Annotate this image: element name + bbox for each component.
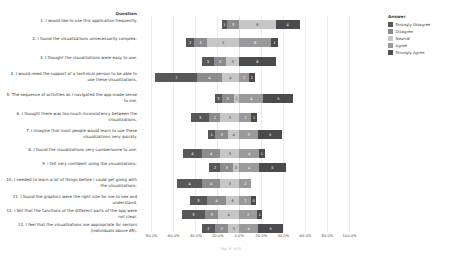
bar-segment-5-5: 5 (263, 94, 293, 103)
bar-segment-11-2: 4 (207, 196, 226, 205)
question-label-11: 11. I found the graphics were the right … (3, 194, 137, 205)
bar-segment-10-1: 4 (177, 179, 201, 188)
bar-segment-7-4: 3 (239, 130, 258, 139)
bar-segment-11-5: 0 (251, 196, 255, 205)
x-tick-4: 0.0% (235, 234, 244, 238)
question-label-4: 4. I would need the support of a technic… (3, 71, 137, 82)
legend-swatch-icon-1 (388, 29, 393, 34)
question-label-2: 2. I found the visualizations unnecessar… (3, 36, 137, 42)
bar-segment-8-4: 4 (239, 149, 259, 158)
bar-segment-6-3: 3 (220, 113, 239, 122)
question-label-9: 9. I felt very confident using the visua… (3, 161, 137, 167)
figure-caption: Fig. 8. SUS (0, 246, 462, 251)
bar-row-3: 3336 (140, 57, 355, 66)
x-tick-8: 80.0% (322, 234, 334, 238)
bar-segment-3-1: 3 (202, 57, 214, 66)
bar-segment-1-5: 4 (276, 20, 300, 29)
plot-area: 1364235613336744213324532321134354434123… (140, 16, 355, 232)
bar-segment-4-4: 2 (239, 73, 249, 82)
legend-item-0[interactable]: Strongly Disagree (388, 22, 458, 27)
bar-segment-12-4: 2 (239, 210, 257, 219)
bar-segment-2-5: 1 (271, 38, 278, 47)
bar-row-9: 23345 (140, 163, 355, 172)
bar-row-10: 4432 (140, 179, 355, 188)
bar-segment-7-5: 5 (258, 130, 282, 139)
bar-segment-4-3: 4 (222, 73, 240, 82)
question-column-header: Question (116, 11, 138, 16)
bar-row-12: 33421 (140, 210, 355, 219)
legend-label-4: Strongly Agree (396, 50, 425, 55)
x-tick-7: 60.0% (300, 234, 312, 238)
legend-label-3: Agree (396, 43, 407, 48)
bar-segment-9-4: 4 (239, 163, 259, 172)
bar-segment-8-5: 1 (259, 149, 265, 158)
question-label-8: 8. I found the visualizations very cumbe… (3, 147, 137, 153)
bar-segment-4-2: 4 (197, 73, 221, 82)
question-label-7: 7. I imagine that most people would lear… (3, 128, 137, 139)
bar-row-8: 44341 (140, 149, 355, 158)
x-tick-5: 20.0% (255, 234, 267, 238)
x-axis: -80.0%-60.0%-40.0%-20.0%0.0%20.0%40.0%60… (140, 232, 355, 244)
bar-segment-12-5: 1 (257, 210, 263, 219)
bar-segment-1-3: 6 (239, 20, 275, 29)
bar-segment-3-2: 3 (214, 57, 226, 66)
legend-item-3[interactable]: Agree (388, 43, 458, 48)
bar-segment-7-1: 1 (208, 130, 215, 139)
likert-chart: Question 1. I would like to use this app… (0, 0, 462, 257)
bar-segment-8-3: 3 (220, 149, 239, 158)
bar-segment-2-2: 3 (194, 38, 207, 47)
bar-row-5: 33245 (140, 94, 355, 103)
question-label-5: 5. The sequence of activities as I navig… (3, 92, 137, 103)
bar-segment-5-2: 3 (222, 94, 234, 103)
bar-segment-8-1: 4 (183, 149, 202, 158)
x-tick-1: -60.0% (167, 234, 180, 238)
bar-row-4: 74421 (140, 73, 355, 82)
question-label-6: 6. I thought there was too much inconsis… (3, 111, 137, 122)
bar-segment-9-5: 5 (259, 163, 285, 172)
legend-swatch-icon-3 (388, 43, 393, 48)
legend-swatch-icon-0 (388, 22, 393, 27)
bar-row-2: 23561 (140, 38, 355, 47)
bar-segment-6-1: 3 (191, 113, 210, 122)
legend-label-1: Disagree (396, 29, 413, 34)
x-tick-3: -20.0% (211, 234, 224, 238)
bar-segment-11-1: 3 (190, 196, 208, 205)
legend-item-1[interactable]: Disagree (388, 29, 458, 34)
bar-segment-3-3: 3 (226, 57, 239, 66)
bar-segment-6-2: 2 (209, 113, 220, 122)
question-label-12: 12. I felt that the functions of the dif… (3, 208, 137, 219)
legend-swatch-icon-2 (388, 36, 393, 41)
bar-segment-5-4: 4 (239, 94, 263, 103)
legend-label-0: Strongly Disagree (396, 22, 431, 27)
bar-segment-9-2: 3 (220, 163, 232, 172)
question-label-3: 3. I thought the visualizations were eas… (3, 55, 137, 61)
legend-label-2: Neutral (396, 36, 410, 41)
bar-segment-12-2: 3 (205, 210, 218, 219)
x-tick-6: 40.0% (277, 234, 289, 238)
bar-segment-10-2: 4 (202, 179, 221, 188)
bar-segment-8-2: 4 (202, 149, 221, 158)
legend-item-4[interactable]: Strongly Agree (388, 50, 458, 55)
x-tick-2: -40.0% (189, 234, 202, 238)
bar-segment-1-2: 3 (227, 20, 239, 29)
bar-segment-2-4: 6 (239, 38, 271, 47)
bar-segment-12-1: 3 (182, 210, 205, 219)
bar-segment-6-5: 1 (251, 113, 257, 122)
bar-segment-2-1: 2 (186, 38, 194, 47)
bar-segment-12-3: 4 (218, 210, 239, 219)
question-column: Question 1. I would like to use this app… (0, 0, 140, 235)
legend: Answer Strongly DisagreeDisagreeNeutralA… (388, 14, 458, 57)
bar-segment-3-5: 6 (239, 57, 275, 66)
bar-segment-9-1: 2 (209, 163, 220, 172)
x-tick-9: 100.0% (342, 234, 356, 238)
bar-segment-11-3: 6 (226, 196, 239, 205)
legend-item-2[interactable]: Neutral (388, 36, 458, 41)
bar-segment-4-5: 1 (249, 73, 255, 82)
bar-segment-6-4: 2 (239, 113, 251, 122)
legend-swatch-icon-4 (388, 50, 393, 55)
legend-title: Answer (388, 14, 458, 19)
bar-row-11: 34620 (140, 196, 355, 205)
question-label-10: 10. I needed to learn a lot of things be… (3, 177, 137, 188)
bar-row-1: 1364 (140, 20, 355, 29)
bar-segment-4-1: 7 (155, 73, 197, 82)
